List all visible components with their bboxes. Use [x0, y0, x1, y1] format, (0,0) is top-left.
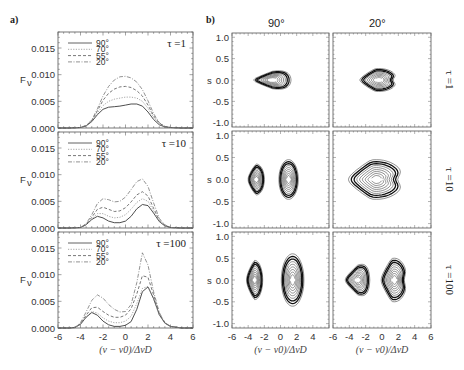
x-tick-label: -2 [99, 331, 107, 342]
contour-peak [374, 78, 383, 82]
y-tick-label: -0.5 [213, 296, 229, 307]
contour-peak [391, 278, 397, 282]
series-55deg [58, 192, 193, 228]
x-tick-label: 2 [396, 331, 401, 342]
y-axis-label: F [20, 274, 26, 285]
x-tick-label: -6 [329, 331, 337, 342]
y-tick-label: 0.015 [31, 243, 55, 254]
y-tick-label: 1.0 [216, 32, 229, 43]
tau-label: τ =1 [167, 37, 186, 49]
contour-panel-2-2: τ =10 [333, 131, 456, 228]
y-tick-label: 0.000 [31, 123, 55, 134]
series-55deg [58, 86, 193, 128]
series-20deg [58, 253, 193, 328]
panel-b-label: b) [206, 14, 215, 25]
y-tick-label: 0.005 [31, 196, 55, 207]
y-tick-label: -1.0 [213, 218, 229, 229]
contour-peak [253, 278, 257, 282]
y-tick-label: 0.5 [216, 253, 229, 264]
legend-label: 20° [96, 157, 109, 167]
x-tick-label: -4 [244, 331, 252, 342]
series-90deg [58, 104, 193, 128]
column-header-20: 20° [369, 17, 386, 29]
x-tick-label: 0 [278, 331, 283, 342]
x-tick-label: 4 [412, 331, 417, 342]
y-tick-label: 0.010 [31, 69, 55, 80]
x-axis-label: (ν − ν0)/ΔνD [254, 344, 307, 356]
x-tick-label: -6 [228, 331, 236, 342]
x-axis-label: (ν − ν0)/ΔνD [99, 344, 152, 356]
contour-peak [286, 178, 291, 182]
y-tick-label: 0.005 [31, 96, 55, 107]
contour-peak [355, 278, 361, 282]
y-tick-label: -1.0 [213, 318, 229, 329]
x-axis-label: (ν − ν0)/ΔνD [356, 344, 409, 356]
y-tick-label: 1.0 [216, 130, 229, 141]
contour-panel-3-2: τ =100-6-4-20246(ν − ν0)/ΔνD [329, 232, 456, 356]
contour-panel-1-2: τ =1 [333, 33, 456, 127]
y-tick-label: 0.0 [216, 75, 229, 86]
y-tick-label: 1.0 [216, 231, 229, 242]
legend-label: 20° [96, 257, 109, 267]
row-label: τ =1 [444, 71, 456, 90]
svg-text:ν: ν [27, 277, 32, 288]
svg-text:ν: ν [27, 77, 32, 88]
x-tick-label: 6 [190, 331, 195, 342]
series-70deg [58, 97, 193, 128]
y-tick-label: 0.010 [31, 269, 55, 280]
x-tick-label: 4 [310, 331, 315, 342]
series-70deg [58, 286, 193, 328]
contour-peak [369, 178, 383, 182]
y-tick-label: 0.000 [31, 223, 55, 234]
y-tick-label: -0.5 [213, 96, 229, 107]
y-tick-label: 0.015 [31, 43, 55, 54]
y-axis-label: s [207, 275, 212, 286]
y-axis-label: s [207, 174, 212, 185]
contour-peak [268, 78, 277, 82]
plot-frame [232, 33, 329, 127]
x-tick-label: 0 [379, 331, 384, 342]
y-axis-label: F [20, 74, 26, 85]
x-tick-label: 0 [123, 331, 128, 342]
x-tick-label: 2 [294, 331, 299, 342]
y-axis-label: s [207, 75, 212, 86]
line-panel-3: 0.0000.0050.0100.015Fν90°70°55°20°τ =100… [20, 232, 196, 356]
row-label: τ =100 [444, 265, 456, 295]
line-panel-2: 0.0000.0050.0100.015Fν90°70°55°20°τ =10 [20, 132, 193, 234]
y-tick-label: 0.010 [31, 169, 55, 180]
y-tick-label: 0.005 [31, 296, 55, 307]
contour-panel-3-1: -1.0-0.50.00.51.0s-6-4-2024(ν − ν0)/ΔνD [207, 231, 329, 356]
legend-label: 20° [96, 57, 109, 67]
x-tick-label: -2 [260, 331, 268, 342]
y-tick-label: -0.5 [213, 196, 229, 207]
x-tick-label: -4 [76, 331, 84, 342]
y-tick-label: 0.5 [216, 53, 229, 64]
column-header-90: 90° [268, 17, 285, 29]
series-20deg [58, 76, 193, 128]
contour-panel-2-1: -1.0-0.50.00.51.0s [207, 130, 329, 229]
tau-label: τ =10 [162, 137, 187, 149]
panel-a-label: a) [10, 14, 18, 25]
y-tick-label: -1.0 [213, 117, 229, 128]
y-tick-label: 0.5 [216, 152, 229, 163]
y-axis-label: F [20, 174, 26, 185]
x-tick-label: -4 [345, 331, 353, 342]
line-panel-1: 0.0000.0050.0100.015Fν90°70°55°20°τ =1 [20, 32, 193, 134]
y-tick-label: 0.015 [31, 143, 55, 154]
x-tick-label: -6 [54, 331, 62, 342]
y-tick-label: 0.000 [31, 323, 55, 334]
x-tick-label: 6 [428, 331, 433, 342]
y-tick-label: 0.0 [216, 174, 229, 185]
tau-label: τ =100 [156, 237, 186, 249]
contour-panel-1-1: -1.0-0.50.00.51.0s [207, 32, 329, 128]
series-90deg [58, 287, 193, 328]
svg-text:ν: ν [27, 177, 32, 188]
series-70deg [58, 199, 193, 228]
x-tick-label: 4 [168, 331, 173, 342]
contour-peak [254, 178, 258, 182]
contour-peak [290, 278, 296, 282]
figure-canvas: 0.0000.0050.0100.015Fν90°70°55°20°τ =10.… [0, 0, 464, 370]
row-label: τ =10 [444, 167, 456, 192]
x-tick-label: 2 [145, 331, 150, 342]
series-55deg [58, 276, 193, 328]
